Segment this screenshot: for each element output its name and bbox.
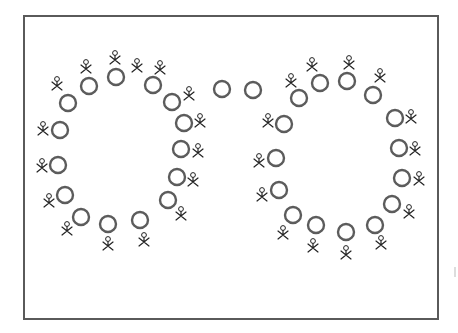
person-icon [103,237,113,250]
connector-seats [214,81,261,98]
seat-circle-icon [132,212,148,228]
person-icon [376,236,386,249]
seat-circle-icon [394,170,410,186]
left-ring-seats [50,69,192,232]
person-icon [410,142,420,155]
right-ring-seats [268,73,410,240]
person-icon [44,194,54,207]
seat-circle-icon [271,182,287,198]
seat-circle-icon [276,116,292,132]
seat-circle-icon [100,216,116,232]
person-icon [110,51,120,64]
person-icon [139,233,149,246]
seat-circle-icon [391,140,407,156]
seat-circle-icon [214,81,230,97]
person-icon [263,114,273,127]
person-icon [193,144,203,157]
person-icon [184,87,194,100]
seat-circle-icon [365,87,381,103]
person-icon [375,69,385,82]
person-icon [286,74,296,87]
person-icon [406,110,416,123]
seat-circle-icon [285,207,301,223]
seat-circle-icon [81,78,97,94]
seat-circle-icon [312,75,328,91]
seat-circle-icon [384,196,400,212]
person-icon [195,114,205,127]
person-icon [257,188,267,201]
seat-circle-icon [291,90,307,106]
seat-circle-icon [57,187,73,203]
seat-circle-icon [176,115,192,131]
seat-circle-icon [268,150,284,166]
seating-diagram [0,0,458,333]
seat-circle-icon [108,69,124,85]
seat-circle-icon [164,94,180,110]
person-icon [176,207,186,220]
person-icon [341,246,351,259]
seat-circle-icon [50,157,66,173]
person-icon [188,173,198,186]
person-icon [38,122,48,135]
seat-circle-icon [245,82,261,98]
person-icon [81,60,91,73]
person-icon [307,58,317,71]
seat-circle-icon [367,217,383,233]
person-icon [344,56,354,69]
seat-circle-icon [387,110,403,126]
person-icon [308,239,318,252]
seat-circle-icon [73,209,89,225]
seat-circle-icon [145,77,161,93]
person-icon [132,59,142,72]
person-icon [414,172,424,185]
seat-circle-icon [339,73,355,89]
person-icon [62,222,72,235]
person-icon [37,159,47,172]
seat-circle-icon [52,122,68,138]
person-icon [155,61,165,74]
person-icon [254,154,264,167]
seat-circle-icon [60,95,76,111]
person-icon [404,205,414,218]
seat-circle-icon [338,224,354,240]
person-icon [278,226,288,239]
seat-circle-icon [169,169,185,185]
seat-circle-icon [173,141,189,157]
seats-layer [50,69,410,240]
seat-circle-icon [160,192,176,208]
seat-circle-icon [308,217,324,233]
person-icon [52,77,62,90]
